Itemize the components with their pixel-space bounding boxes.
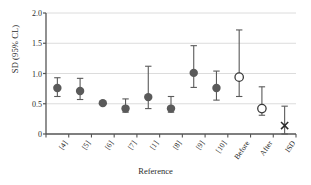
data-point-group xyxy=(258,87,266,115)
marker-filled-circle xyxy=(99,99,107,107)
data-point-group xyxy=(76,78,84,99)
data-point-group xyxy=(144,66,152,108)
data-point-group xyxy=(167,96,175,112)
marker-filled-circle xyxy=(212,84,220,92)
marker-filled-circle xyxy=(76,87,84,95)
marker-open-circle xyxy=(258,104,266,112)
data-point-group xyxy=(212,71,220,100)
marker-filled-circle xyxy=(53,84,61,92)
data-point-group xyxy=(99,99,107,107)
marker-open-circle xyxy=(235,73,243,81)
data-point-group xyxy=(121,99,129,113)
marker-filled-circle xyxy=(144,93,152,101)
marker-filled-circle xyxy=(167,104,175,112)
marker-filled-circle xyxy=(121,104,129,112)
data-point-group xyxy=(281,106,288,134)
data-point-group xyxy=(190,46,198,88)
marker-filled-circle xyxy=(190,69,198,77)
data-point-group xyxy=(53,78,61,97)
chart-figure: SD (95% CL) Reference 00.51.01.52.0 [4][… xyxy=(0,0,311,185)
plot-canvas xyxy=(0,0,311,185)
data-point-group xyxy=(235,30,243,97)
